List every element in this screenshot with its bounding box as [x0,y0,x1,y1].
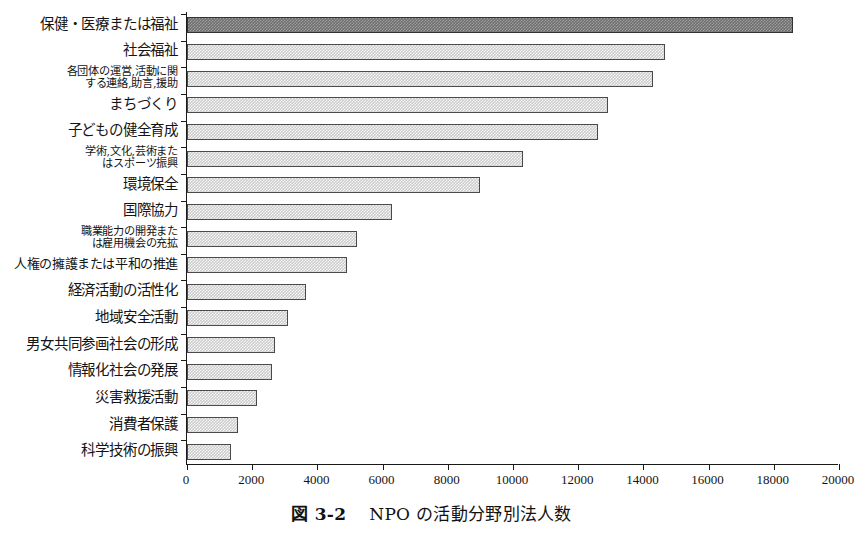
category-label: 各団体の運営,活動に関 する連絡,助言,援助 [0,66,182,90]
bar [187,444,231,460]
category-label: 人権の擁護または平和の推進 [0,257,182,271]
bar [187,337,275,353]
category-label: 経済活動の活性化 [0,283,182,299]
category-label: 職業能力の開発また は雇用機会の充拡 [0,226,182,250]
category-label-column: 保健・医療または福祉社会福祉各団体の運営,活動に関 する連絡,助言,援助まちづく… [0,12,182,465]
x-axis-tick-label: 8000 [434,472,460,488]
x-axis-tick [317,464,318,470]
y-axis-tick [181,147,187,148]
category-label: 国際協力 [0,203,182,219]
y-axis-tick [181,440,187,441]
x-axis-tick-label: 20000 [822,472,855,488]
bar [187,364,272,380]
x-axis-tick [774,464,775,470]
category-label: 科学技術の振興 [0,443,182,459]
y-axis-tick [181,41,187,42]
bar [187,310,288,326]
y-axis-tick [181,307,187,308]
y-axis-tick [181,67,187,68]
y-axis-tick [181,334,187,335]
figure-container: 保健・医療または福祉社会福祉各団体の運営,活動に関 する連絡,助言,援助まちづく… [0,0,863,536]
category-label: 環境保全 [0,177,182,193]
x-axis-tick-label: 0 [183,472,190,488]
x-axis-tick-label: 18000 [757,472,790,488]
bar [187,257,347,273]
category-label: 社会福祉 [0,43,182,59]
y-axis-tick [181,360,187,361]
category-label: 保健・医療または福祉 [0,17,182,33]
caption-text: NPO の活動分野別法人数 [369,504,572,524]
bar-chart: 保健・医療または福祉社会福祉各団体の運営,活動に関 する連絡,助言,援助まちづく… [0,0,863,492]
bar [187,97,608,113]
x-axis-tick-label: 2000 [238,472,264,488]
y-axis-tick [181,414,187,415]
y-axis-tick [181,280,187,281]
bar [187,204,392,220]
x-axis-tick [513,464,514,470]
category-label: 災害救援活動 [0,390,182,406]
caption-number: 図 3-2 [291,504,346,524]
category-label: まちづくり [0,97,182,113]
bar [187,71,653,87]
x-axis-tick-label: 16000 [691,472,724,488]
x-axis-tick-label: 6000 [369,472,395,488]
y-axis-tick [181,201,187,202]
x-axis-tick [187,464,188,470]
figure-caption: 図 3-2 NPO の活動分野別法人数 [0,500,863,525]
y-axis-tick [181,174,187,175]
category-label: 子どもの健全育成 [0,123,182,139]
y-axis-tick [181,94,187,95]
bar [187,417,238,433]
x-axis-tick [709,464,710,470]
x-axis-tick-label: 4000 [303,472,329,488]
y-axis-tick [181,227,187,228]
x-axis-tick-label: 10000 [496,472,529,488]
plot-area [186,12,838,465]
y-axis-tick [181,14,187,15]
y-axis-tick [181,254,187,255]
x-axis-tick [839,464,840,470]
category-label: 男女共同参画社会の形成 [0,337,182,353]
bar [187,17,793,33]
bar [187,151,523,167]
x-axis-tick [252,464,253,470]
bar [187,177,480,193]
x-axis-tick-label: 14000 [626,472,659,488]
x-axis-tick [578,464,579,470]
x-axis-tick-label: 12000 [561,472,594,488]
bar [187,390,257,406]
bar [187,231,357,247]
x-axis-tick [383,464,384,470]
bar [187,284,306,300]
x-axis-tick [643,464,644,470]
y-axis-tick [181,121,187,122]
category-label: 情報化社会の発展 [0,363,182,379]
bar [187,44,665,60]
category-label: 学術,文化,芸術また はスポーツ振興 [0,146,182,170]
y-axis-tick [181,387,187,388]
x-axis-tick [448,464,449,470]
category-label: 地域安全活動 [0,310,182,326]
category-label: 消費者保護 [0,417,182,433]
bar [187,124,598,140]
